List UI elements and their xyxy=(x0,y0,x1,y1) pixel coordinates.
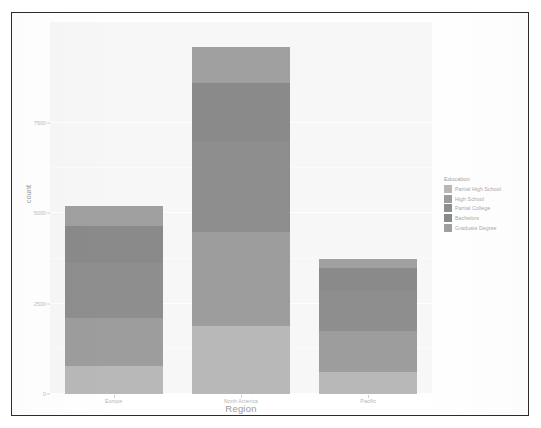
bar-segment[interactable] xyxy=(319,291,417,330)
bar-segment[interactable] xyxy=(65,366,163,394)
y-axis-title: count xyxy=(25,185,32,203)
y-tick-mark xyxy=(47,303,50,304)
y-tick-label: 0 xyxy=(43,391,46,397)
bar-segment[interactable] xyxy=(192,326,290,394)
legend: Education Partial High SchoolHigh School… xyxy=(444,176,528,232)
bar-segment[interactable] xyxy=(319,372,417,394)
legend-swatch-icon xyxy=(444,185,452,193)
legend-item[interactable]: Graduate Degree xyxy=(444,223,528,233)
bar-pacific[interactable] xyxy=(319,259,417,394)
y-tick-label: 2500 xyxy=(34,301,46,307)
bar-europe[interactable] xyxy=(65,206,163,394)
plot-panel xyxy=(50,22,432,394)
bar-segment[interactable] xyxy=(65,318,163,366)
legend-swatch-icon xyxy=(444,195,452,203)
legend-swatch-icon xyxy=(444,214,452,222)
legend-item[interactable]: Bachelors xyxy=(444,213,528,223)
legend-item[interactable]: High School xyxy=(444,194,528,204)
x-tick-mark xyxy=(241,395,242,398)
legend-item-label: Bachelors xyxy=(455,215,479,221)
bar-segment[interactable] xyxy=(192,232,290,326)
bar-segment[interactable] xyxy=(192,142,290,232)
bar-segment[interactable] xyxy=(319,259,417,269)
legend-item-label: High School xyxy=(455,196,484,202)
legend-item-label: Partial College xyxy=(455,205,490,211)
legend-item[interactable]: Partial College xyxy=(444,204,528,214)
bar-segment[interactable] xyxy=(65,226,163,263)
legend-title: Education xyxy=(444,176,528,182)
bar-segment[interactable] xyxy=(192,83,290,142)
y-tick-mark xyxy=(47,213,50,214)
y-tick-mark xyxy=(47,123,50,124)
legend-item-label: Partial High School xyxy=(455,186,501,192)
legend-item[interactable]: Partial High School xyxy=(444,185,528,195)
bar-segment[interactable] xyxy=(192,47,290,83)
figure-frame: 0250050007500 count EuropeNorth AmericaP… xyxy=(11,12,529,416)
x-tick-mark xyxy=(114,395,115,398)
bar-north-america[interactable] xyxy=(192,47,290,394)
y-tick-label: 7500 xyxy=(34,120,46,126)
bar-segment[interactable] xyxy=(319,268,417,291)
bar-segment[interactable] xyxy=(65,263,163,318)
bar-segment[interactable] xyxy=(319,331,417,373)
legend-swatch-icon xyxy=(444,224,452,232)
legend-item-label: Graduate Degree xyxy=(455,225,497,231)
bar-segment[interactable] xyxy=(65,206,163,226)
legend-items: Partial High SchoolHigh SchoolPartial Co… xyxy=(444,185,528,233)
legend-swatch-icon xyxy=(444,204,452,212)
x-axis-title: Region xyxy=(50,403,432,414)
y-tick-label: 5000 xyxy=(34,210,46,216)
y-axis-tick-labels: 0250050007500 xyxy=(12,13,50,394)
x-tick-mark xyxy=(368,395,369,398)
